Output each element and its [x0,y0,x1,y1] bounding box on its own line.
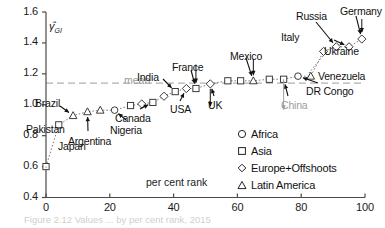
annotation-russia: Russia [296,10,327,22]
y-tick-label: 1.6 [12,5,38,17]
square-marker-icon [236,145,248,157]
x-tick-label: 60 [222,201,252,213]
annotation-italy: Italy [281,31,299,43]
x-tick-label: 20 [95,201,125,213]
x-tick-label: 40 [159,201,189,213]
data-point-marker [182,84,190,92]
legend-item-asia[interactable]: Asia [236,143,337,159]
x-tick-label: 100 [350,201,380,213]
legend: Africa Asia Europe+Offshoots Latin Ameri… [236,126,337,194]
data-point-marker [150,99,156,105]
annotation-germany: Germany [340,5,382,17]
data-point-marker [172,89,178,95]
figure-caption: Figure 2.12 Values ... by per cent rank,… [24,214,211,225]
diamond-marker-icon [236,162,248,174]
annotation-india: India [137,71,159,83]
legend-item-africa[interactable]: Africa [236,126,337,142]
annotation-nigeria: Nigeria [110,124,142,136]
y-tick-label: 0.6 [12,159,38,171]
annotation-uk: UK [208,99,222,111]
data-point-marker [96,106,104,113]
data-point-marker [127,102,133,108]
data-point-marker [193,85,199,91]
legend-item-europe-offshoots[interactable]: Europe+Offshoots [236,160,337,176]
annotation-china: China [281,99,307,111]
x-tick-label: 0 [31,201,61,213]
annotation-usa: USA [170,103,191,115]
annotation-brazil: Brazil [35,97,60,109]
x-tick-label: 80 [286,201,316,213]
legend-label-europe-offshoots: Europe+Offshoots [251,162,337,174]
y-tick-label: 1.2 [12,66,38,78]
annotation-pakistan: Pakistan [26,123,65,135]
data-point-marker [206,80,214,88]
data-point-marker [266,76,272,82]
legend-item-latin-america[interactable]: Latin America [236,177,337,193]
annotation-france: France [172,61,203,73]
legend-label-africa: Africa [251,128,278,140]
circle-marker-icon [236,128,248,140]
annotation-arrowhead [284,84,288,89]
data-point-marker [237,78,243,84]
annotation-canada: Canada [115,112,151,124]
data-point-marker [358,35,366,43]
y-tick-label: 1.4 [12,35,38,47]
figure-container: 0.40.60.81.01.21.41.6 020406080100 γ̂GI … [0,0,385,228]
annotation-venezuela: Venezuela [318,70,365,82]
y-axis-label: γ̂GI [49,20,62,34]
annotation-mexico: Mexico [230,50,262,62]
data-point-marker [225,78,231,84]
annotation-argentina: Argentina [68,135,111,147]
x-axis-label: per cent rank [146,176,207,188]
triangle-marker-icon [236,179,248,191]
legend-label-asia: Asia [251,145,272,157]
data-point-marker [160,92,168,100]
annotation-ukraine: Ukraine [324,45,359,57]
annotation-dr-congo: DR Congo [306,85,353,97]
annotation-arrowhead [64,108,69,112]
legend-label-latin-america: Latin America [251,179,315,191]
data-point-marker [307,72,315,79]
annotation-arrowhead [86,117,90,121]
data-point-marker [295,73,302,80]
